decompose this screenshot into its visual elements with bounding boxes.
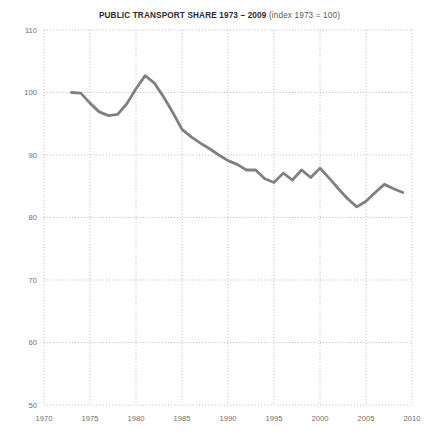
y-axis-tick-label: 50	[29, 401, 37, 410]
line-chart-plot: 5060708090100110 19701975198019851990199…	[0, 0, 439, 439]
x-axis-tick-labels: 197019751980198519901995200020052010	[36, 414, 421, 423]
x-axis-tick-label: 1980	[128, 414, 145, 423]
x-axis-tick-label: 1985	[174, 414, 191, 423]
y-axis-tick-label: 90	[29, 151, 37, 160]
x-axis-tick-label: 1975	[82, 414, 99, 423]
y-axis-tick-label: 110	[25, 26, 37, 35]
x-axis-tick-label: 1990	[220, 414, 237, 423]
chart-figure: PUBLIC TRANSPORT SHARE 1973 – 2009 (inde…	[0, 0, 439, 439]
y-axis-tick-label: 80	[29, 213, 37, 222]
x-axis-tick-label: 1970	[36, 414, 53, 423]
y-axis-tick-label: 60	[29, 338, 37, 347]
x-axis-tick-label: 2005	[358, 414, 375, 423]
y-axis-tick-labels: 5060708090100110	[24, 26, 37, 410]
data-series-line	[72, 76, 403, 207]
y-axis-tick-label: 100	[24, 88, 37, 97]
x-axis-tick-label: 2010	[404, 414, 421, 423]
x-axis-tick-label: 1995	[266, 414, 283, 423]
vertical-gridlines	[44, 30, 412, 405]
y-axis-tick-label: 70	[29, 276, 37, 285]
x-axis-tick-label: 2000	[312, 414, 329, 423]
